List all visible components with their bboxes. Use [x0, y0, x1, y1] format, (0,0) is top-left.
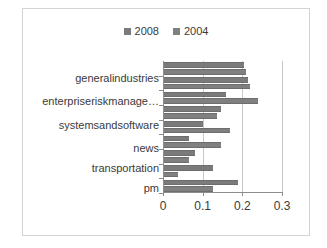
bar-group-row-7	[163, 149, 282, 164]
bar-2008-row-3	[163, 92, 226, 98]
y-label-pm: pm	[144, 182, 159, 194]
bar-2008-row-5	[163, 121, 203, 127]
y-axis-category-labels: generalindustries enterpriseriskmanage… …	[20, 0, 159, 248]
bar-2008-row-8	[163, 165, 213, 171]
legend-item-2004: 2004	[173, 26, 208, 37]
bar-2004-row-2	[163, 84, 250, 90]
bar-2008-row-2	[163, 77, 248, 83]
bar-2004-row-8	[163, 172, 178, 178]
bar-2004-row-5	[163, 128, 230, 134]
bar-group-row-8	[163, 164, 282, 179]
y-tick-6	[159, 149, 163, 150]
bar-group-row-4	[163, 105, 282, 120]
bar-2004-row-4	[163, 113, 217, 119]
bar-2004-row-3	[163, 98, 258, 104]
bar-2008-row-7	[163, 150, 195, 156]
y-tick-2	[159, 90, 163, 91]
y-label-generalindustries: generalindustries	[75, 72, 159, 84]
bar-2008-row-4	[163, 106, 221, 112]
x-tick-label-0.1: 0.1	[194, 199, 211, 213]
bar-2004-row-7	[163, 157, 189, 163]
y-axis-line	[163, 61, 164, 193]
y-label-transportation: transportation	[92, 162, 159, 174]
y-tick-3	[159, 105, 163, 106]
y-tick-1	[159, 76, 163, 77]
chart-plot-area	[163, 61, 282, 193]
x-tick-label-0.2: 0.2	[234, 199, 251, 213]
chart-bars	[163, 61, 282, 193]
bar-group-row-2	[163, 76, 282, 91]
y-tick-5	[159, 134, 163, 135]
gridline-0.3	[282, 61, 283, 193]
y-tick-7	[159, 164, 163, 165]
x-tick-mark-0.3	[282, 192, 283, 196]
y-tick-4	[159, 120, 163, 121]
y-tick-8	[159, 178, 163, 179]
y-label-systemsandsoftware: systemsandsoftware	[59, 119, 159, 131]
x-tick-mark-0.2	[242, 192, 243, 196]
bar-group-row-1	[163, 61, 282, 76]
bar-2008-row-6	[163, 136, 189, 142]
bar-2008-row-1	[163, 62, 244, 68]
legend-label-2004: 2004	[184, 26, 208, 37]
x-axis-line	[163, 192, 283, 193]
chart-figure: 2008 2004 generalindustries enterpriseri…	[0, 0, 327, 248]
bar-group-row-5	[163, 120, 282, 135]
y-label-news: news	[133, 142, 159, 154]
x-tick-mark-0.1	[203, 192, 204, 196]
y-label-enterpriseriskmanagement: enterpriseriskmanage…	[42, 95, 159, 107]
bar-2004-row-6	[163, 142, 221, 148]
bar-2004-row-1	[163, 69, 246, 75]
bar-group-row-9	[163, 178, 282, 193]
bar-group-row-3	[163, 90, 282, 105]
x-tick-label-0.3: 0.3	[274, 199, 291, 213]
bar-2008-row-9	[163, 180, 238, 186]
x-tick-mark-0	[163, 192, 164, 196]
legend-swatch-2004	[173, 28, 180, 35]
bar-group-row-6	[163, 134, 282, 149]
x-tick-label-0: 0	[160, 199, 167, 213]
